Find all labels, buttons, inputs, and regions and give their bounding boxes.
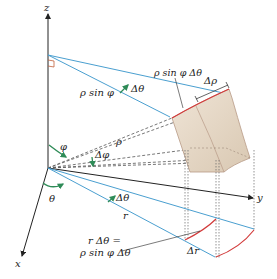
spherical-volume-diagram: z x y Δρ ρ sin φ Δθ xyxy=(0,0,277,279)
rho-sin-phi-delta-theta-label-top: ρ sin φ Δθ xyxy=(153,67,202,78)
r-label: r xyxy=(123,210,129,221)
delta-phi-label: Δφ xyxy=(94,149,109,160)
delta-theta-bottom-arc xyxy=(108,196,115,202)
r-delta-theta-label-line1: r Δθ = xyxy=(88,235,121,246)
delta-theta-top-label: Δθ xyxy=(130,83,144,94)
phi-label: φ xyxy=(60,141,67,152)
y-axis xyxy=(48,168,253,198)
x-axis-label: x xyxy=(15,258,21,269)
theta-arc xyxy=(43,183,63,187)
y-axis-label: y xyxy=(256,192,263,203)
delta-rho-label: Δρ xyxy=(203,75,217,86)
x-axis xyxy=(22,168,48,256)
delta-r-label: Δr xyxy=(186,245,200,256)
rho-label: ρ xyxy=(115,136,122,147)
top-leader-line xyxy=(175,78,183,108)
theta-label: θ xyxy=(49,193,55,204)
volume-element-box xyxy=(172,89,250,172)
rho-sin-phi-label: ρ sin φ xyxy=(79,87,114,98)
r-delta-theta-label-line2: ρ sin φ Δθ xyxy=(79,247,130,258)
right-angle-marker xyxy=(48,60,54,67)
z-axis-label: z xyxy=(43,2,50,13)
delta-theta-bottom-label: Δθ xyxy=(115,192,129,203)
delta-phi-arc xyxy=(92,157,93,166)
delta-theta-top-arc xyxy=(120,85,128,93)
